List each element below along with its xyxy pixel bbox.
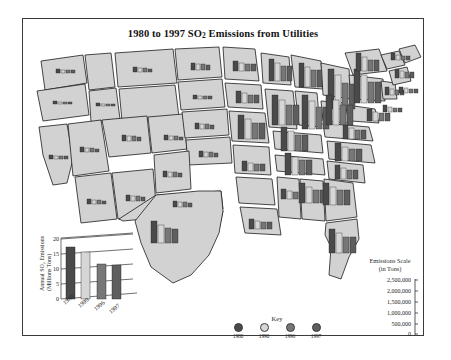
scale-title-line1: Emissions Scale (357, 257, 423, 265)
key-year-1996: 1996 (282, 333, 299, 339)
inset-chart-svg: Annual SO₂ Emissions (Millions Tons) 20 … (33, 229, 143, 329)
title-suffix: Emissions from Utilities (206, 28, 318, 39)
inset-ylabel-line2: (Millions Tons) (46, 254, 53, 291)
inset-ytick-10: 10 (53, 266, 59, 272)
inset-bar-1996 (97, 264, 106, 299)
page-title: 1980 to 1997 SO2 Emissions from Utilitie… (23, 28, 423, 40)
key-item-1990: 1990 (256, 323, 273, 339)
scale-title-line2: (in Tons) (357, 265, 423, 273)
key-year-1997: 1997 (308, 333, 325, 339)
emissions-scale-legend: Emissions Scale (in Tons) 2,500,000 2,00… (357, 257, 423, 337)
key-swatch-1990 (260, 323, 269, 332)
bar-cluster-de (383, 105, 402, 112)
scale-tick-2500000: 2,500,000 (387, 277, 411, 283)
inset-bar-1997 (112, 265, 121, 299)
scale-axis-svg: 2,500,000 2,000,000 1,500,000 1,000,000 … (357, 275, 423, 337)
inset-xlabel-1996: 1996 (93, 299, 106, 311)
key-items: 1980 1990 1996 1997 (223, 323, 331, 339)
scale-axis-line (415, 279, 418, 335)
inset-xlabel-1997: 1997 (108, 302, 121, 314)
key-title: Key (223, 315, 331, 322)
key-item-1996: 1996 (282, 323, 299, 339)
inset-bar-1990 (81, 252, 90, 299)
inset-ytick-0: 0 (56, 296, 59, 302)
scale-tick-0: 0 (408, 331, 411, 337)
inset-ytick-15: 15 (53, 251, 59, 257)
title-prefix: 1980 to 1997 SO (128, 28, 202, 39)
scale-tick-1500000: 1,500,000 (387, 299, 411, 305)
scale-tick-2000000: 2,000,000 (387, 288, 411, 294)
scale-tick-1000000: 1,000,000 (387, 310, 411, 316)
inset-bar-1980 (66, 247, 75, 299)
figure-frame: 1980 to 1997 SO2 Emissions from Utilitie… (22, 18, 424, 336)
scale-ticks: 2,500,000 2,000,000 1,500,000 1,000,000 … (387, 277, 411, 337)
key-year-1980: 1980 (230, 333, 247, 339)
inset-bars (66, 247, 121, 299)
inset-y-ticks: 20 15 10 5 0 (53, 236, 59, 302)
key-swatch-1980 (234, 323, 243, 332)
key-item-1997: 1997 (308, 323, 325, 339)
scale-title: Emissions Scale (in Tons) (357, 257, 423, 273)
key-swatch-1997 (312, 323, 321, 332)
key-year-1990: 1990 (256, 333, 273, 339)
key-item-1980: 1980 (230, 323, 247, 339)
key-swatch-1996 (286, 323, 295, 332)
inset-ytick-20: 20 (53, 236, 59, 242)
key-legend: Key 1980 1990 1996 1997 (223, 315, 331, 339)
inset-y-axis-label: Annual SO₂ Emissions (Millions Tons) (39, 235, 53, 291)
scale-tick-500000: 500,000 (392, 321, 412, 327)
inset-ytick-5: 5 (56, 281, 59, 287)
inset-ylabel-line1: Annual SO₂ Emissions (39, 235, 45, 291)
inset-bar-chart: Annual SO₂ Emissions (Millions Tons) 20 … (33, 229, 143, 329)
bar-cluster-ct (399, 87, 418, 93)
